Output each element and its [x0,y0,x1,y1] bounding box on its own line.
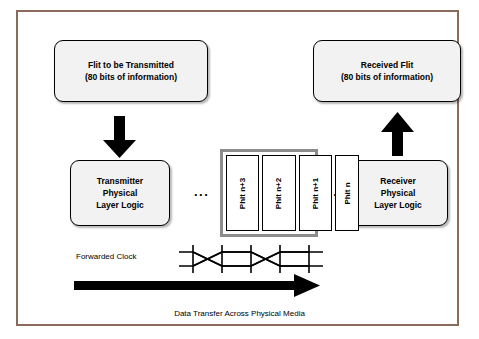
forwarded-clock-label: Forwarded Clock [76,252,136,261]
transmitter-physical-layer-logic-box: Transmitter Physical Layer Logic [70,160,170,226]
transmitter-line3: Layer Logic [96,199,144,211]
transmitter-line1: Transmitter [96,175,144,187]
receiver-line2: Physical [374,187,422,199]
phit-label: Phit n+3 [238,177,247,208]
phit-cell: Phit n+1 [299,155,332,231]
received-flit-line1: Received Flit [341,59,433,71]
flit-transmitted-line1: Flit to be Transmitted [85,59,177,71]
received-flit-box: Received Flit (80 bits of information) [313,40,461,102]
flit-transmitted-line2: (80 bits of information) [85,71,177,83]
phit-label: Phit n+2 [275,177,284,208]
up-arrow-icon [381,112,414,156]
figure-root: Flit to be Transmitted (80 bits of infor… [0,0,479,339]
receiver-physical-layer-logic-box: Receiver Physical Layer Logic [348,160,448,226]
down-arrow-icon [103,116,136,158]
transmitter-line2: Physical [96,187,144,199]
receiver-line3: Layer Logic [374,199,422,211]
flit-to-be-transmitted-box: Flit to be Transmitted (80 bits of infor… [54,40,208,102]
figure-frame: Flit to be Transmitted (80 bits of infor… [16,10,459,326]
eye-diagram-icon [179,245,323,273]
receiver-line1: Receiver [374,175,422,187]
phit-label: Phit n+1 [311,177,320,208]
phit-cell: Phit n [335,155,359,231]
data-flow-arrow-icon [74,274,320,297]
received-flit-line2: (80 bits of information) [341,71,433,83]
phit-label: Phit n [343,182,352,204]
figure-caption: Data Transfer Across Physical Media [18,309,461,318]
phit-cell: Phit n+2 [262,155,295,231]
phit-cell: Phit n+3 [226,155,259,231]
ellipsis-left: ... [194,184,209,199]
phit-stack: Phit n+3 Phit n+2 Phit n+1 Phit n [220,149,318,237]
